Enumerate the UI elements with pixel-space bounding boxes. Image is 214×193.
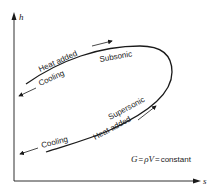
constant-mass-flux-equation: G=ρV=constant [131, 154, 192, 164]
equation-equals-1: = [139, 155, 144, 164]
x-axis: s [14, 176, 207, 186]
y-axis-label: h [19, 12, 24, 22]
y-axis: h [12, 12, 25, 181]
equation-constant: constant [161, 155, 192, 164]
equation-equals-2: = [155, 155, 160, 164]
h-s-diagram: h s Heat added Subsonic Cooling Superson… [0, 0, 214, 193]
upper-branch: Heat added Subsonic Cooling [19, 41, 133, 96]
x-axis-label: s [203, 176, 207, 186]
equation-g: G [131, 154, 138, 164]
x-axis-arrow-icon [193, 179, 201, 184]
subsonic-label: Subsonic [99, 49, 133, 64]
lower-cooling-arrow-icon [20, 148, 38, 154]
upper-heat-added-arrow-icon [92, 41, 112, 46]
svg-text:G=ρV=constant: G=ρV=constant [131, 154, 192, 164]
lower-cooling-label: Cooling [40, 135, 69, 150]
upper-cooling-arrow-icon [19, 88, 36, 96]
lower-branch: Supersonic Heat added Cooling [20, 95, 156, 154]
y-axis-arrow-icon [12, 12, 17, 20]
